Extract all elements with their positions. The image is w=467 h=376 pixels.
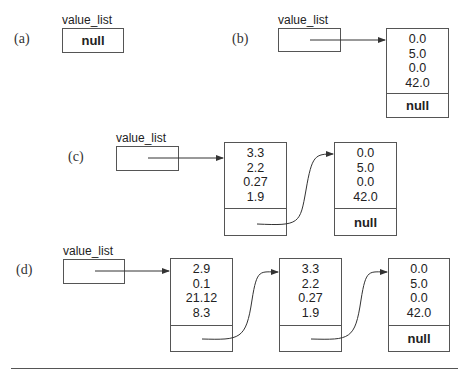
bottom-rule [11,368,458,369]
arrow-icon [311,272,387,339]
arrow-icon [202,272,278,339]
arrow-icon [257,154,333,225]
pointer-arrows [0,0,467,376]
